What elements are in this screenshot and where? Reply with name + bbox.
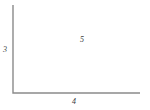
right-triangle-shape [0, 0, 150, 110]
triangle-outline-path [13, 5, 140, 93]
horizontal-leg-length-label: 4 [72, 98, 76, 106]
hypotenuse-length-label: 5 [80, 36, 84, 44]
vertical-leg-length-label: 3 [3, 46, 7, 54]
triangle-diagram-canvas: 3 4 5 [0, 0, 150, 110]
